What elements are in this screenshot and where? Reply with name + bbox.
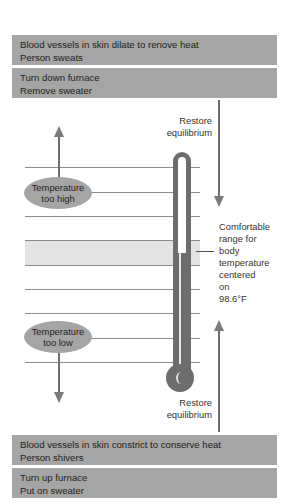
arrow-up-icon xyxy=(54,126,64,137)
ellipse-text: too high xyxy=(24,193,92,204)
restore-up-arrow-shaft xyxy=(218,330,220,432)
restore-down-arrow-shaft xyxy=(218,100,220,196)
label-line: Restore xyxy=(164,115,212,127)
box-line: Person sweats xyxy=(20,52,269,65)
label-line: temperature xyxy=(219,257,270,269)
fall-arrow-shaft xyxy=(58,350,60,392)
low-home-response-box: Turn up furnace Put on sweater xyxy=(12,468,277,498)
ellipse-text: Temperature xyxy=(24,182,92,193)
label-line: equilibrium xyxy=(164,409,212,421)
label-line: Restore xyxy=(164,397,212,409)
low-body-response-box: Blood vessels in skin constrict to conse… xyxy=(12,435,277,465)
range-pointer-line xyxy=(196,251,214,252)
box-line: Turn down furnace xyxy=(20,72,269,85)
restore-equilibrium-label-bottom: Restore equilibrium xyxy=(164,397,212,421)
arrow-down-icon xyxy=(214,196,224,207)
box-line: Turn up furnace xyxy=(20,472,269,485)
label-line: equilibrium xyxy=(164,127,212,139)
temperature-too-low-ellipse: Temperature too low xyxy=(24,321,92,353)
restore-equilibrium-label-top: Restore equilibrium xyxy=(164,115,212,139)
thermometer-empty-column xyxy=(178,157,186,253)
high-home-response-box: Turn down furnace Remove sweater xyxy=(12,68,277,98)
box-line: Blood vessels in skin dilate to renove h… xyxy=(20,39,269,52)
box-line: Put on sweater xyxy=(20,485,269,498)
label-line: Comfortable xyxy=(219,221,270,233)
label-line: on xyxy=(219,281,270,293)
label-line: range for xyxy=(219,233,270,245)
comfortable-range-label: Comfortable range for body temperature c… xyxy=(219,221,270,305)
label-line: body xyxy=(219,245,270,257)
box-line: Remove sweater xyxy=(20,85,269,98)
arrow-up-icon xyxy=(214,320,224,331)
rise-arrow-shaft xyxy=(58,136,60,178)
ellipse-text: Temperature xyxy=(24,326,92,337)
box-line: Blood vessels in skin constrict to conse… xyxy=(20,439,269,452)
arrow-down-icon xyxy=(54,392,64,403)
ellipse-text: too low xyxy=(24,337,92,348)
box-line: Person shivers xyxy=(20,452,269,465)
high-body-response-box: Blood vessels in skin dilate to renove h… xyxy=(12,35,277,65)
bulb-gleam xyxy=(176,372,186,384)
temperature-too-high-ellipse: Temperature too high xyxy=(24,177,92,209)
thermometer-highlight xyxy=(179,253,181,375)
label-line: 98.6°F xyxy=(219,293,270,305)
label-line: centered xyxy=(219,269,270,281)
